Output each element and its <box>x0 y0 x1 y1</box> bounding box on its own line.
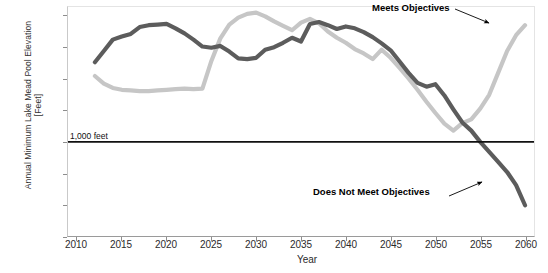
x-tick-mark <box>301 237 302 241</box>
chart-figure: Annual Minimum Lake Mead Pool Elevation … <box>0 0 548 273</box>
x-tick-mark <box>211 237 212 241</box>
annotation-does-not-meet-objectives: Does Not Meet Objectives <box>313 186 430 197</box>
reference-line-label: 1,000 feet <box>70 131 108 141</box>
x-tick-mark <box>391 237 392 241</box>
x-tick-mark <box>346 237 347 241</box>
x-tick-mark <box>121 237 122 241</box>
y-tick-mark <box>63 237 67 238</box>
y-axis-title: Annual Minimum Lake Mead Pool Elevation … <box>24 0 40 223</box>
x-axis-title: Year <box>0 254 548 265</box>
y-axis-title-line1: Annual Minimum Lake Mead Pool Elevation <box>23 21 33 189</box>
x-tick-mark <box>526 237 527 241</box>
line-series-meets-objectives <box>95 13 525 131</box>
line-series-does-not-meet-objectives <box>95 22 525 205</box>
y-axis-title-line2: [Feet] <box>34 0 44 223</box>
x-axis-title-text: Year <box>297 254 317 265</box>
x-tick-mark <box>166 237 167 241</box>
plot-area <box>67 6 535 237</box>
x-tick-mark <box>76 237 77 241</box>
x-tick-mark <box>436 237 437 241</box>
annotation-meets-objectives: Meets Objectives <box>372 2 450 13</box>
x-tick-mark <box>256 237 257 241</box>
plot-svg <box>68 7 534 236</box>
x-tick-mark <box>481 237 482 241</box>
